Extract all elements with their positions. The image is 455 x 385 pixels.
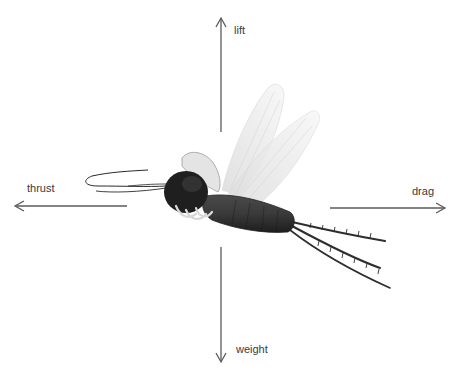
tail-filaments [290, 222, 390, 288]
thrust-arrow [15, 201, 127, 211]
lift-arrow [216, 18, 226, 132]
drag-label: drag [412, 186, 434, 197]
weight-arrow [216, 247, 226, 362]
head-thorax [164, 171, 208, 213]
drag-arrow [330, 203, 445, 213]
force-diagram: lift thrust drag weight [0, 0, 455, 385]
diagram-canvas [0, 0, 455, 385]
weight-label: weight [236, 344, 268, 355]
insect-illustration [86, 84, 390, 288]
lift-label: lift [234, 25, 245, 36]
thrust-label: thrust [27, 183, 55, 194]
